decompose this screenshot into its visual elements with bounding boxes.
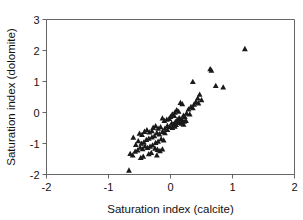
y-tick-label: 0 xyxy=(33,107,39,119)
x-tick-label: -1 xyxy=(104,181,114,193)
data-point-marker xyxy=(130,135,136,140)
chart-svg: -2-1012-2-10123 Saturation index (calcit… xyxy=(0,0,303,220)
data-point-marker xyxy=(213,83,219,88)
data-point-marker xyxy=(190,79,196,84)
x-tick-label: 2 xyxy=(291,181,297,193)
scatter-chart-figure: -2-1012-2-10123 Saturation index (calcit… xyxy=(0,0,303,220)
y-tick-label: 1 xyxy=(33,76,39,88)
data-point-marker xyxy=(126,167,132,172)
x-tick-label: -2 xyxy=(42,181,52,193)
y-tick-label: 3 xyxy=(33,14,39,26)
data-point-marker xyxy=(135,138,141,143)
x-tick-label: 1 xyxy=(229,181,235,193)
data-points xyxy=(126,46,248,173)
data-point-marker xyxy=(220,84,226,89)
y-tick-label: -1 xyxy=(30,138,40,150)
axis-tick-labels: -2-1012-2-10123 xyxy=(30,14,298,193)
y-tick-label: -2 xyxy=(30,169,40,181)
x-tick-label: 0 xyxy=(167,181,173,193)
axis-ticks xyxy=(43,20,295,179)
data-point-marker xyxy=(160,115,166,120)
x-axis-title: Saturation index (calcite) xyxy=(107,203,234,215)
y-axis-title: Saturation index (dolomite) xyxy=(5,28,17,166)
y-tick-label: 2 xyxy=(33,45,39,57)
plot-frame xyxy=(47,20,295,175)
data-point-marker xyxy=(242,46,248,51)
